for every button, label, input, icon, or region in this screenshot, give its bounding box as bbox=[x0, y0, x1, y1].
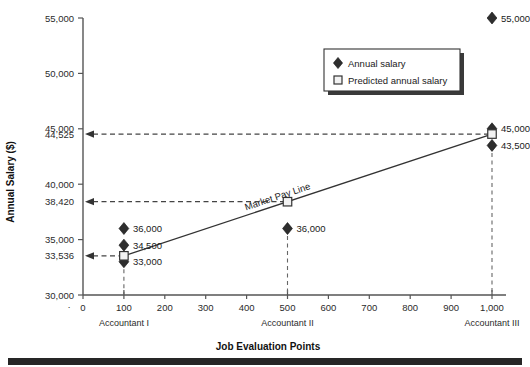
x-tick-label: 600 bbox=[320, 302, 336, 313]
footer-rule bbox=[8, 358, 522, 365]
data-point-label: 33,000 bbox=[133, 256, 162, 267]
data-point-label: 55,000 bbox=[501, 13, 530, 24]
y-tick-label: 50,000 bbox=[45, 68, 74, 79]
y-tick-label: 30,000 bbox=[45, 290, 74, 301]
chart-container: Market Pay Line 36,00034,50033,00036,000… bbox=[0, 0, 530, 367]
x-tick-label: 0 bbox=[80, 302, 85, 313]
legend-square-icon bbox=[334, 76, 342, 84]
x-tick-label: 300 bbox=[198, 302, 214, 313]
category-label: Accountant I bbox=[99, 318, 149, 328]
data-point-predicted-salary bbox=[120, 252, 128, 260]
salary-scatter-chart: Market Pay Line 36,00034,50033,00036,000… bbox=[0, 0, 530, 367]
y-tick-label: 35,000 bbox=[45, 234, 74, 245]
x-tick-label: 900 bbox=[443, 302, 459, 313]
x-tick-label: 800 bbox=[402, 302, 418, 313]
legend-item-label: Predicted annual salary bbox=[348, 75, 448, 86]
chart-legend[interactable]: Annual salaryPredicted annual salary bbox=[324, 49, 464, 95]
x-tick-label: 400 bbox=[239, 302, 255, 313]
x-tick-label: 500 bbox=[280, 302, 296, 313]
category-label: Accountant III bbox=[464, 318, 519, 328]
data-point-label: 34,500 bbox=[133, 240, 162, 251]
x-tick-label: 100 bbox=[116, 302, 132, 313]
data-point-label: 43,500 bbox=[501, 140, 530, 151]
y-tick-label-predicted: 38,420 bbox=[45, 196, 74, 207]
y-axis-title: Annual Salary ($) bbox=[5, 141, 16, 223]
x-tick-label: 200 bbox=[157, 302, 173, 313]
y-tick-label: 55,000 bbox=[45, 13, 74, 24]
x-tick-label: 700 bbox=[361, 302, 377, 313]
category-label: Accountant II bbox=[261, 318, 314, 328]
data-point-label: 45,000 bbox=[501, 123, 530, 134]
legend-item-label: Annual salary bbox=[348, 58, 406, 69]
x-axis-title: Job Evaluation Points bbox=[216, 341, 321, 352]
data-point-predicted-salary bbox=[283, 197, 292, 206]
data-point-predicted-salary bbox=[488, 130, 497, 139]
x-axis-origin-dot: · bbox=[67, 301, 70, 312]
y-tick-label: 40,000 bbox=[45, 179, 74, 190]
data-point-label: 36,000 bbox=[297, 223, 326, 234]
x-tick-label: 1,000 bbox=[480, 302, 504, 313]
y-tick-label-predicted: 33,536 bbox=[45, 250, 74, 261]
data-point-label: 36,000 bbox=[133, 223, 162, 234]
y-tick-label-predicted: 44,525 bbox=[45, 129, 74, 140]
